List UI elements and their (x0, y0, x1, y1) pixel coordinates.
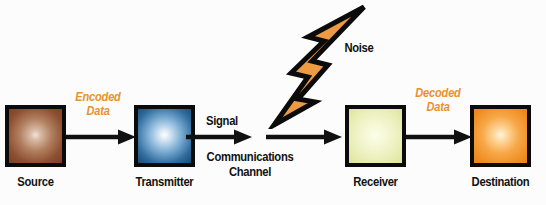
arrow-source-to-transmitter (66, 129, 136, 145)
communications-channel-label: Communications Channel (196, 150, 304, 179)
encoded-data-line-1: Encoded (65, 91, 131, 105)
node-source[interactable] (5, 105, 66, 167)
decoded-data-line-1: Decoded (405, 87, 471, 101)
decoded-data-label: Decoded Data (405, 87, 471, 114)
glowing-square-orange-icon (474, 109, 527, 163)
glowing-square-blue-icon (138, 109, 191, 163)
encoded-data-line-2: Data (65, 105, 131, 119)
node-destination[interactable] (470, 105, 531, 167)
arrow-transmitter-to-channel (186, 129, 252, 145)
signal-label: Signal (194, 114, 250, 129)
arrow-receiver-to-destination (406, 129, 472, 145)
node-label-destination: Destination (462, 175, 539, 189)
channel-line-1: Communications (196, 150, 304, 165)
arrow-channel-to-receiver (266, 129, 342, 145)
communications-system-diagram: Source Transmitter Receiver Destination … (0, 0, 546, 205)
encoded-data-label: Encoded Data (65, 91, 131, 118)
lightning-bolt-icon (268, 3, 372, 129)
glowing-square-brown-icon (9, 109, 62, 163)
channel-line-2: Channel (196, 165, 304, 180)
node-label-receiver: Receiver (339, 175, 412, 189)
decoded-data-line-2: Data (405, 101, 471, 115)
node-label-transmitter: Transmitter (124, 175, 206, 189)
node-label-source: Source (4, 175, 68, 189)
